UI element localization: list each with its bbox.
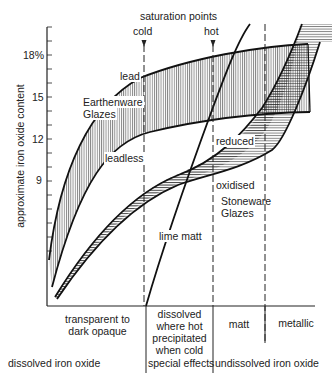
- reduced-label: reduced: [215, 135, 255, 147]
- earthenware-label-1: Earthenware: [82, 96, 144, 108]
- earthenware-label-2: Glazes: [82, 108, 117, 120]
- hot-arrow-icon: [211, 40, 216, 47]
- oxidised-label: oxidised: [215, 179, 256, 191]
- y-axis-label: approximate iron oxide content: [14, 76, 26, 236]
- y-tick-15: 15: [32, 91, 44, 103]
- group-dissolved-label: dissolved iron oxide: [8, 357, 100, 369]
- stoneware-label-2: Glazes: [221, 207, 254, 219]
- region-transparent-line1: transparent to: [50, 313, 145, 325]
- region-dissolved-line2: where hot: [146, 320, 213, 332]
- y-tick-18: 18%: [23, 49, 44, 61]
- saturation-points-title: saturation points: [140, 10, 217, 22]
- hot-label: hot: [204, 25, 219, 37]
- y-tick-12: 12: [32, 133, 44, 145]
- y-tick-9: 9: [36, 174, 42, 186]
- region-metallic-label: metallic: [265, 317, 327, 329]
- y-axis-ticks: [47, 27, 52, 251]
- lime-matt-label: lime matt: [158, 230, 203, 242]
- region-transparent-label: transparent to dark opaque: [50, 313, 145, 337]
- region-dissolved-line1: dissolved: [146, 308, 213, 320]
- cold-label: cold: [133, 25, 152, 37]
- region-transparent-line2: dark opaque: [50, 325, 145, 337]
- region-dissolved-label: dissolved where hot precipitated when co…: [146, 308, 213, 356]
- region-dissolved-line4: when cold: [146, 344, 213, 356]
- region-matt-label: matt: [213, 318, 265, 330]
- region-dissolved-line3: precipitated: [146, 332, 213, 344]
- group-undissolved-label: undissolved iron oxide: [215, 357, 319, 369]
- cold-arrow-icon: [142, 40, 147, 47]
- stoneware-label-1: Stoneware: [221, 195, 271, 207]
- lead-label: lead: [119, 70, 141, 82]
- group-special-label: special effects: [148, 357, 214, 369]
- leadless-label: leadless: [104, 152, 145, 164]
